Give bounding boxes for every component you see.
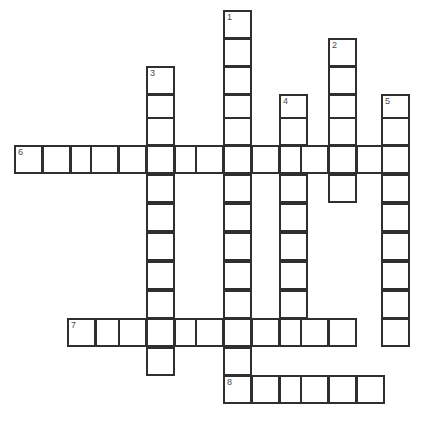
crossword-grid[interactable]: 12345678: [0, 0, 430, 425]
crossword-cell[interactable]: [118, 145, 147, 174]
crossword-cell[interactable]: [146, 347, 175, 376]
crossword-cell[interactable]: [223, 117, 252, 146]
crossword-cell[interactable]: [223, 318, 252, 347]
crossword-cell[interactable]: [279, 290, 308, 319]
crossword-cell[interactable]: [279, 117, 308, 146]
crossword-cell[interactable]: [381, 117, 410, 146]
crossword-cell[interactable]: [279, 203, 308, 232]
clue-number: 8: [227, 377, 232, 387]
crossword-cell[interactable]: [223, 66, 252, 95]
clue-number: 2: [332, 40, 337, 50]
crossword-cell-numbered[interactable]: 8: [223, 375, 252, 404]
crossword-cell[interactable]: [328, 66, 357, 95]
crossword-cell[interactable]: [381, 232, 410, 261]
crossword-cell[interactable]: [146, 145, 175, 174]
crossword-cell[interactable]: [42, 145, 71, 174]
crossword-cell[interactable]: [381, 174, 410, 203]
crossword-cell[interactable]: [223, 38, 252, 67]
crossword-cell[interactable]: [223, 232, 252, 261]
crossword-cell[interactable]: [146, 261, 175, 290]
crossword-cell[interactable]: [146, 290, 175, 319]
crossword-cell[interactable]: [223, 145, 252, 174]
crossword-cell[interactable]: [381, 318, 410, 347]
crossword-cell[interactable]: [300, 145, 329, 174]
clue-number: 6: [18, 147, 23, 157]
crossword-cell[interactable]: [90, 145, 119, 174]
crossword-cell[interactable]: [300, 318, 329, 347]
crossword-cell[interactable]: [328, 174, 357, 203]
crossword-cell[interactable]: [223, 290, 252, 319]
crossword-cell[interactable]: [328, 117, 357, 146]
crossword-cell[interactable]: [279, 232, 308, 261]
crossword-cell[interactable]: [146, 117, 175, 146]
crossword-cell[interactable]: [328, 145, 357, 174]
crossword-cell[interactable]: [146, 318, 175, 347]
crossword-cell-numbered[interactable]: 7: [67, 318, 96, 347]
crossword-cell[interactable]: [146, 203, 175, 232]
clue-number: 3: [150, 68, 155, 78]
clue-number: 5: [385, 96, 390, 106]
crossword-cell-numbered[interactable]: 3: [146, 66, 175, 95]
crossword-cell[interactable]: [279, 261, 308, 290]
crossword-cell[interactable]: [195, 145, 224, 174]
crossword-cell[interactable]: [223, 347, 252, 376]
crossword-cell[interactable]: [146, 232, 175, 261]
crossword-cell[interactable]: [356, 375, 385, 404]
crossword-cell[interactable]: [251, 375, 280, 404]
crossword-cell[interactable]: [195, 318, 224, 347]
crossword-cell[interactable]: [381, 145, 410, 174]
crossword-cell[interactable]: [300, 375, 329, 404]
crossword-cell-numbered[interactable]: 1: [223, 10, 252, 39]
crossword-cell[interactable]: [223, 261, 252, 290]
crossword-cell[interactable]: [223, 174, 252, 203]
crossword-cell[interactable]: [328, 318, 357, 347]
crossword-cell[interactable]: [223, 203, 252, 232]
crossword-cell[interactable]: [118, 318, 147, 347]
crossword-cell[interactable]: [251, 145, 280, 174]
clue-number: 4: [283, 96, 288, 106]
crossword-cell-numbered[interactable]: 6: [14, 145, 43, 174]
crossword-cell[interactable]: [146, 174, 175, 203]
clue-number: 7: [71, 320, 76, 330]
crossword-cell-numbered[interactable]: 2: [328, 38, 357, 67]
crossword-cell[interactable]: [381, 261, 410, 290]
crossword-cell[interactable]: [381, 203, 410, 232]
crossword-cell[interactable]: [328, 375, 357, 404]
crossword-cell[interactable]: [279, 174, 308, 203]
crossword-cell[interactable]: [251, 318, 280, 347]
clue-number: 1: [227, 12, 232, 22]
crossword-cell[interactable]: [381, 290, 410, 319]
